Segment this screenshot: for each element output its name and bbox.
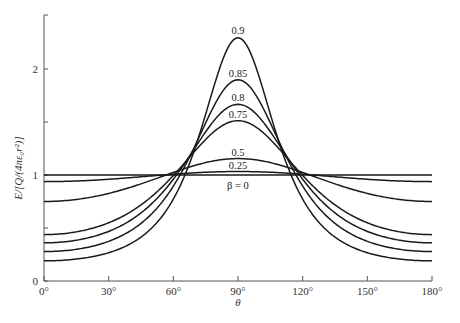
curve-label: 0.8	[231, 92, 244, 103]
y-tick-label: 0	[33, 275, 39, 287]
curve-beta-0-75	[44, 121, 432, 235]
y-axis-title: E/[Q/(4πε₀r²)]	[12, 136, 25, 200]
x-tick-label: 30°	[101, 285, 116, 297]
curve-label: 0.25	[229, 160, 247, 171]
curve-labels: β = 00.250.50.750.80.850.9	[227, 25, 249, 191]
curve-label: 0.9	[231, 25, 244, 36]
y-axis-line	[44, 15, 48, 281]
field-vs-angle-chart: 0°30°60°90°120°150°180° 012 β = 00.250.5…	[0, 0, 460, 323]
curve-label: 0.5	[231, 147, 244, 158]
x-tick-label: 150°	[357, 285, 378, 297]
x-ticks: 0°30°60°90°120°150°180°	[39, 276, 442, 297]
curve-label: 0.85	[229, 68, 247, 79]
x-tick-label: 0°	[39, 285, 49, 297]
curve-label: β = 0	[227, 180, 249, 191]
y-tick-label: 2	[33, 63, 39, 75]
x-axis-title: θ	[235, 296, 241, 308]
curve-label: 0.75	[229, 109, 247, 120]
curve-beta-0-8	[44, 104, 432, 243]
x-tick-label: 180°	[422, 285, 443, 297]
y-tick-label: 1	[33, 169, 39, 181]
x-tick-label: 60°	[166, 285, 181, 297]
x-tick-label: 120°	[292, 285, 313, 297]
